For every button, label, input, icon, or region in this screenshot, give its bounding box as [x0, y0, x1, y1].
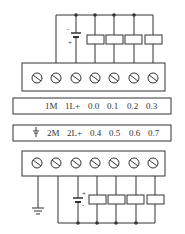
relay-coil-icon [89, 195, 106, 204]
wiring-diagram: - + [0, 0, 185, 234]
label-2l-plus: 2L+ [67, 128, 82, 138]
label-q0-4: 0.4 [90, 128, 101, 138]
label-q0-3: 0.3 [146, 101, 157, 111]
svg-text:-: - [67, 25, 70, 33]
top-circuit: - + [13, 13, 171, 114]
terminal-screws-bottom [32, 158, 158, 168]
label-q0-6: 0.6 [129, 128, 140, 138]
svg-text:+: + [82, 190, 86, 198]
label-q0-0: 0.0 [88, 101, 99, 111]
relay-coil-icon [87, 35, 104, 44]
terminal-screws-top [32, 73, 158, 83]
earth-ground-icon [32, 208, 44, 214]
svg-text:+: + [68, 39, 72, 47]
terminal-block-bottom [22, 151, 165, 176]
svg-text:-: - [82, 201, 85, 209]
label-q0-2: 0.2 [127, 101, 138, 111]
relay-coil-icon [125, 35, 142, 44]
label-2m: 2M [47, 128, 60, 138]
relay-coil-icon [106, 35, 123, 44]
relay-coil-icon [108, 195, 125, 204]
relay-coil-icon [127, 195, 144, 204]
bottom-circuit: + - [13, 125, 171, 225]
ground-icon [33, 127, 39, 137]
label-q0-1: 0.1 [107, 101, 118, 111]
label-q0-5: 0.5 [109, 128, 120, 138]
label-q0-7: 0.7 [148, 128, 159, 138]
relay-coil-icon [147, 195, 164, 204]
relay-coil-icon [145, 35, 162, 44]
label-1l-plus: 1L+ [65, 101, 80, 111]
label-1m: 1M [45, 101, 58, 111]
relay-coils [87, 15, 162, 63]
